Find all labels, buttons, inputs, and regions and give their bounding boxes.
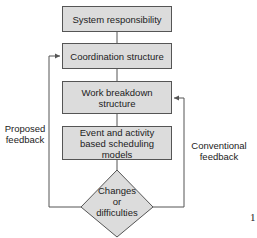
box-label: Coordination structure xyxy=(70,51,163,62)
box-scheduling-models: Event and activity based scheduling mode… xyxy=(62,126,172,160)
decision-label: Changes or difficulties xyxy=(92,185,142,218)
label-line: feedback xyxy=(186,151,252,162)
conventional-feedback-label: Conventional feedback xyxy=(186,140,252,162)
decision-line: Changes xyxy=(92,185,142,196)
page-marker: 1 xyxy=(250,211,256,223)
label-line: Proposed xyxy=(4,123,46,134)
box-coordination-structure: Coordination structure xyxy=(62,43,172,69)
label-line: feedback xyxy=(4,134,46,145)
box-label: Event and activity based scheduling mode… xyxy=(67,127,167,160)
box-label: System responsibility xyxy=(72,14,161,25)
label-line: Conventional xyxy=(186,140,252,151)
proposed-feedback-label: Proposed feedback xyxy=(4,123,46,145)
box-work-breakdown-structure: Work breakdown structure xyxy=(62,81,172,114)
box-label: Work breakdown structure xyxy=(81,87,153,109)
box-system-responsibility: System responsibility xyxy=(62,6,172,32)
decision-line: or xyxy=(92,196,142,207)
decision-line: difficulties xyxy=(92,207,142,218)
